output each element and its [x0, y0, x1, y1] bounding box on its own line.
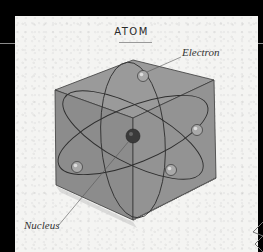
nucleus [126, 129, 140, 143]
nucleus-label: Nucleus [24, 219, 59, 231]
electron-label: Electron [182, 46, 219, 58]
electron-left [72, 162, 83, 173]
electron-bottom-right [166, 165, 177, 176]
electron-top [138, 71, 149, 82]
atom-cube-illustration [0, 0, 263, 252]
corner-decoration [251, 222, 263, 252]
electron-right [192, 125, 203, 136]
